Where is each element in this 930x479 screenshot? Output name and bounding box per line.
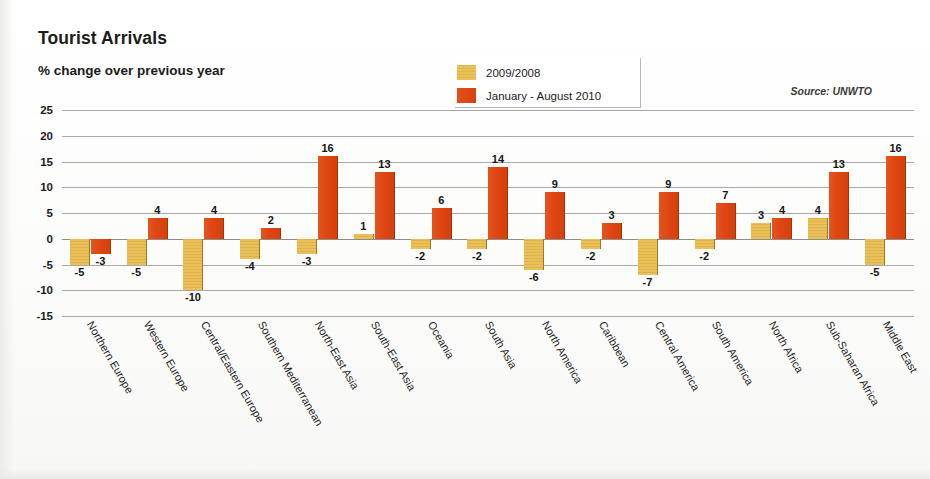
bar-pair: -42: [240, 110, 281, 316]
bar: 4: [808, 218, 828, 239]
x-axis-label-slot: Oceania: [403, 322, 460, 472]
bar-pair: -214: [467, 110, 508, 316]
bar-group: -26: [403, 110, 460, 316]
bar-value-label: -5: [870, 266, 880, 278]
bar: 16: [318, 156, 338, 238]
x-axis-label-slot: Northern Europe: [62, 322, 119, 472]
bar-value-label: -5: [131, 266, 141, 278]
y-axis-tick-label: 0: [47, 233, 53, 245]
x-axis-label-slot: South America: [687, 322, 744, 472]
x-axis-category-label: Oceania: [426, 319, 457, 360]
x-axis-label-slot: North Africa: [744, 322, 801, 472]
x-axis-category-label: Caribbean: [596, 319, 632, 369]
bar-value-label: 16: [321, 142, 333, 154]
bar-group: -23: [573, 110, 630, 316]
bar-value-label: -3: [96, 255, 106, 267]
y-axis-tick-label: -5: [43, 259, 53, 271]
bar-group: 413: [800, 110, 857, 316]
bar-value-label: -2: [699, 250, 709, 262]
plot-area: 2520151050-5-10-15 -5-3-54-104-42-316113…: [62, 110, 914, 316]
bar-pair: -79: [638, 110, 679, 316]
bar-value-label: 4: [815, 204, 821, 216]
bar-group: -104: [176, 110, 233, 316]
chart-legend: 2009/2008 January - August 2010: [455, 58, 641, 108]
bar-value-label: 7: [722, 189, 728, 201]
bar: -3: [297, 239, 317, 254]
legend-item-january-august-2010: January - August 2010: [457, 84, 640, 107]
legend-swatch-icon: [457, 88, 476, 103]
bar: 4: [148, 218, 168, 239]
x-axis-label-slot: Middle East: [857, 322, 914, 472]
bar-value-label: 4: [211, 204, 217, 216]
x-axis-label-slot: Sub-Saharan Africa: [800, 322, 857, 472]
bar-value-label: -10: [185, 291, 201, 303]
bar-value-label: -6: [529, 271, 539, 283]
bar-value-label: -5: [75, 266, 85, 278]
bar: 2: [261, 228, 281, 238]
bar: -2: [467, 239, 487, 249]
bar-value-label: 1: [360, 220, 366, 232]
bar-group: -42: [232, 110, 289, 316]
bar-pair: -54: [127, 110, 168, 316]
bar: 16: [886, 156, 906, 238]
bar-value-label: 4: [779, 204, 785, 216]
bar: 7: [716, 203, 736, 239]
bar-group: -214: [460, 110, 517, 316]
bar: 3: [602, 223, 622, 238]
legend-label: 2009/2008: [486, 67, 540, 79]
gridline: -15: [62, 316, 914, 317]
bar-pair: -516: [865, 110, 906, 316]
bar: 14: [488, 167, 508, 239]
bar-pair: -316: [297, 110, 338, 316]
bar-value-label: 16: [889, 142, 901, 154]
x-axis-labels: Northern EuropeWestern EuropeCentral/Eas…: [62, 322, 914, 472]
y-axis-tick-label: -15: [36, 310, 53, 322]
x-axis-category-label: Middle East: [880, 319, 919, 375]
bar-group: -316: [289, 110, 346, 316]
bar-group: -516: [857, 110, 914, 316]
legend-swatch-icon: [457, 65, 476, 80]
bar-value-label: -2: [472, 250, 482, 262]
bar-pair: -27: [695, 110, 736, 316]
bar: 6: [432, 208, 452, 239]
bar: -2: [695, 239, 715, 249]
bar-group: -54: [119, 110, 176, 316]
bar: -10: [183, 239, 203, 291]
bar-value-label: 13: [833, 158, 845, 170]
bar-value-label: -7: [643, 276, 653, 288]
bar-value-label: 3: [758, 209, 764, 221]
x-axis-label-slot: Western Europe: [119, 322, 176, 472]
bar-value-label: 6: [438, 194, 444, 206]
bar-group: -27: [687, 110, 744, 316]
source-attribution: Source: UNWTO: [791, 85, 872, 97]
bar-group: -79: [630, 110, 687, 316]
x-axis-label-slot: Caribbean: [573, 322, 630, 472]
bar: -2: [411, 239, 431, 249]
bar-pair: -26: [411, 110, 452, 316]
bar-group: -5-3: [62, 110, 119, 316]
bar: 1: [354, 234, 374, 239]
bar-value-label: -4: [245, 260, 255, 272]
x-axis-label-slot: Central America: [630, 322, 687, 472]
bar-value-label: 9: [665, 178, 671, 190]
y-axis-tick-label: 15: [40, 156, 53, 168]
y-axis-tick-label: 25: [40, 104, 53, 116]
bar-group: 34: [744, 110, 801, 316]
legend-label: January - August 2010: [486, 90, 601, 102]
bar: -4: [240, 239, 260, 260]
x-axis-label-slot: Central/Eastern Europe: [176, 322, 233, 472]
bar: -3: [91, 239, 111, 254]
bar-group: -69: [516, 110, 573, 316]
bar: 4: [772, 218, 792, 239]
bar-pair: -104: [183, 110, 224, 316]
bar-value-label: -2: [415, 250, 425, 262]
bar: 13: [375, 172, 395, 239]
bar-pair: 34: [751, 110, 792, 316]
x-axis-label-slot: South-East Asia: [346, 322, 403, 472]
bar: -7: [638, 239, 658, 275]
x-axis-label-slot: Southern Mediterranean: [232, 322, 289, 472]
bar-pair: -69: [524, 110, 565, 316]
bar: 4: [204, 218, 224, 239]
bar-pair: -23: [581, 110, 622, 316]
y-axis-tick-label: 5: [47, 207, 53, 219]
